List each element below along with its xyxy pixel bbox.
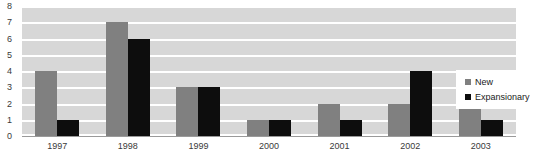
bar-1999-expansionary[interactable]: [198, 87, 220, 136]
y-axis: 012345678: [0, 6, 22, 137]
legend-label-expansionary: Expansionary: [475, 92, 530, 102]
bar-1998-expansionary[interactable]: [128, 39, 150, 137]
legend-label-new: New: [475, 77, 493, 87]
bar-2000-expansionary[interactable]: [269, 120, 291, 136]
y-axis-tick-label: 2: [0, 99, 12, 108]
y-axis-tick-label: 5: [0, 50, 12, 59]
x-axis-tick-label: 1999: [188, 141, 208, 151]
bar-2000-new[interactable]: [247, 120, 269, 136]
bar-chart: 012345678 1997199819992000200120022003 N…: [0, 0, 539, 157]
bar-1998-new[interactable]: [106, 22, 128, 136]
legend-item-new[interactable]: New: [456, 74, 539, 89]
y-axis-tick-label: 6: [0, 34, 12, 43]
y-axis-tick-label: 8: [0, 2, 12, 11]
y-axis-tick-label: 3: [0, 83, 12, 92]
y-axis-tick-label: 4: [0, 67, 12, 76]
y-axis-tick-label: 1: [0, 115, 12, 124]
bar-2001-expansionary[interactable]: [340, 120, 362, 136]
bar-1997-expansionary[interactable]: [57, 120, 79, 136]
x-axis-tick-label: 2001: [330, 141, 350, 151]
bar-2001-new[interactable]: [318, 104, 340, 137]
x-axis-tick-label: 2003: [471, 141, 491, 151]
plot-area: [22, 6, 516, 136]
bar-1997-new[interactable]: [35, 71, 57, 136]
bar-2002-expansionary[interactable]: [410, 71, 432, 136]
y-axis-tick-label: 0: [0, 132, 12, 141]
x-axis: 1997199819992000200120022003: [22, 138, 516, 154]
axis-baseline: [22, 136, 516, 137]
x-axis-tick-label: 2002: [400, 141, 420, 151]
x-axis-tick-label: 1998: [118, 141, 138, 151]
x-axis-tick-label: 2000: [259, 141, 279, 151]
legend-swatch-expansionary-icon: [465, 94, 471, 100]
legend-item-expansionary[interactable]: Expansionary: [456, 89, 539, 104]
bar-2002-new[interactable]: [388, 104, 410, 137]
legend-swatch-new-icon: [465, 79, 471, 85]
chart-title-remnant: [26, 0, 446, 1]
bars-layer: [22, 6, 516, 136]
bar-1999-new[interactable]: [176, 87, 198, 136]
y-axis-tick-label: 7: [0, 18, 12, 27]
bar-2003-expansionary[interactable]: [481, 120, 503, 136]
chart-legend: New Expansionary: [456, 70, 539, 109]
x-axis-tick-label: 1997: [47, 141, 67, 151]
